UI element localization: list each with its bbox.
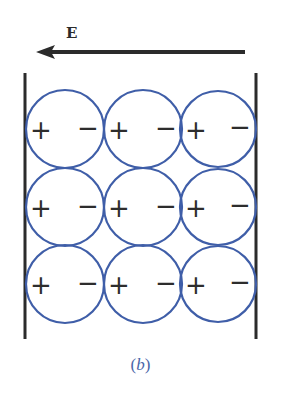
positive-charge: +: [108, 117, 130, 143]
negative-charge: −: [155, 193, 177, 219]
negative-charge: −: [229, 269, 251, 295]
negative-charge: −: [229, 192, 251, 218]
negative-charge: −: [155, 115, 177, 141]
negative-charge: −: [155, 270, 177, 296]
molecule-circles: [26, 90, 256, 323]
negative-charge: −: [229, 114, 251, 140]
positive-charge: +: [30, 195, 52, 221]
negative-charge: −: [77, 270, 99, 296]
positive-charge: +: [185, 117, 207, 143]
negative-charge: −: [77, 193, 99, 219]
positive-charge: +: [30, 272, 52, 298]
electric-field-arrow: [36, 45, 245, 59]
caption-close-paren: ): [145, 355, 151, 374]
positive-charge: +: [108, 195, 130, 221]
positive-charge: +: [185, 195, 207, 221]
negative-charge: −: [77, 115, 99, 141]
figure-caption: (b): [0, 355, 281, 375]
positive-charge: +: [185, 272, 207, 298]
field-label-e: E: [66, 24, 77, 42]
positive-charge: +: [30, 117, 52, 143]
polarized-dielectric-diagram: E + − + − + − + − + − + − + − + − + − (b…: [0, 0, 281, 397]
caption-letter: b: [136, 355, 145, 374]
positive-charge: +: [108, 272, 130, 298]
